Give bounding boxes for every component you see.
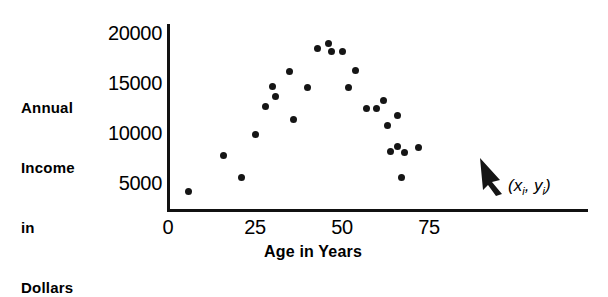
x-tick-label-25: 25: [225, 216, 285, 238]
x-tick-label-75: 75: [399, 216, 459, 238]
x-axis-label: Age in Years: [168, 243, 458, 261]
x-tick-label-50: 50: [312, 216, 372, 238]
x-tick-label-0: 0: [138, 216, 198, 238]
annotation-y-symbol: y: [534, 176, 543, 195]
point-annotation-label: (xi, yi): [508, 176, 551, 197]
annotation-comma: ,: [525, 176, 534, 195]
annotation-close-paren: ): [545, 176, 551, 195]
annotation-x-symbol: x: [514, 176, 523, 195]
